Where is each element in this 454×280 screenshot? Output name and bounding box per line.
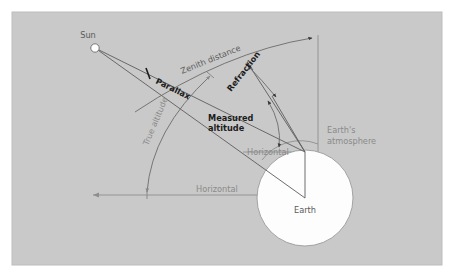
measured-altitude-label-line1: Measured [208, 113, 254, 123]
measured-altitude-label-line2: altitude [208, 123, 245, 133]
earths-atmosphere-label-line2: atmosphere [327, 136, 376, 146]
sun-label: Sun [80, 30, 96, 40]
sun-circle [91, 44, 99, 52]
earths-atmosphere-label-line1: Earth's [327, 125, 355, 135]
horizontal-upper-label: Horizontal [247, 147, 289, 157]
astronomy-altitude-diagram: Sun Earth Parallax Zenith distance Refra… [0, 0, 454, 280]
figure-root: Sun Earth Parallax Zenith distance Refra… [0, 0, 454, 280]
earth-label: Earth [294, 205, 316, 215]
horizontal-lower-label: Horizontal [196, 184, 238, 194]
